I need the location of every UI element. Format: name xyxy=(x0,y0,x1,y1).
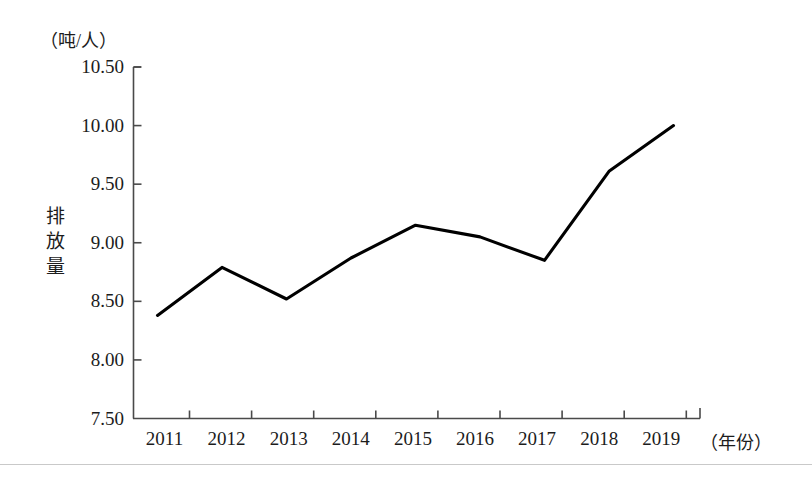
x-axis-tick-label: 2016 xyxy=(456,428,494,450)
x-axis-tick-label: 2015 xyxy=(394,428,432,450)
x-axis-tick-label: 2012 xyxy=(208,428,246,450)
axes-group xyxy=(133,67,700,419)
y-axis-ticks xyxy=(134,67,142,360)
x-axis-tick-label: 2019 xyxy=(642,428,680,450)
x-axis-tick-label: 2011 xyxy=(146,428,183,450)
x-axis-title: （年份） xyxy=(700,428,772,454)
line-chart: （吨/人） 排放量 10.5010.009.509.008.508.007.50… xyxy=(0,0,812,480)
x-axis-tick-label: 2017 xyxy=(518,428,556,450)
page-bottom-rule xyxy=(0,464,812,465)
x-axis-tick-label: 2014 xyxy=(332,428,370,450)
x-axis-tick-label: 2013 xyxy=(270,428,308,450)
plot-area xyxy=(0,0,812,480)
x-axis-ticks xyxy=(190,411,687,419)
x-axis-tick-label: 2018 xyxy=(580,428,618,450)
data-series-line xyxy=(158,126,674,316)
